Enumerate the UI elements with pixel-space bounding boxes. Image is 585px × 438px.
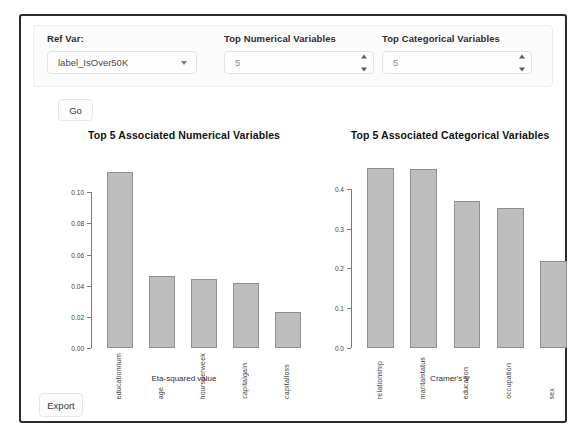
bar xyxy=(191,279,217,348)
x-axis-tick-label-text: sex xyxy=(548,388,555,400)
controls-panel: Ref Var: label_IsOver50K Top Numerical V… xyxy=(33,25,553,87)
bar xyxy=(497,208,524,348)
bar xyxy=(275,312,301,348)
top-categorical-value: 5 xyxy=(383,57,398,68)
app-window-frame: Ref Var: label_IsOver50K Top Numerical V… xyxy=(19,14,567,423)
chevron-down-icon[interactable] xyxy=(181,61,187,65)
app-root: Ref Var: label_IsOver50K Top Numerical V… xyxy=(0,0,585,438)
top-numerical-value: 5 xyxy=(225,57,240,68)
top-categorical-spinner[interactable] xyxy=(516,54,527,71)
x-axis-title: Eta-squared value xyxy=(55,374,313,383)
export-button[interactable]: Export xyxy=(39,393,83,417)
top-numerical-stepper[interactable]: 5 xyxy=(224,51,374,74)
spinner-up-icon[interactable] xyxy=(519,54,525,58)
bar xyxy=(107,172,133,348)
bar xyxy=(454,201,481,348)
ref-var-group: Ref Var: label_IsOver50K xyxy=(47,33,197,74)
bars-area xyxy=(55,161,313,348)
bar xyxy=(410,169,437,348)
bar xyxy=(233,283,259,348)
go-button[interactable]: Go xyxy=(58,99,93,121)
spinner-up-icon[interactable] xyxy=(361,54,367,58)
top-numerical-group: Top Numerical Variables 5 xyxy=(224,33,374,74)
top-categorical-stepper[interactable]: 5 xyxy=(382,51,532,74)
categorical-chart: Top 5 Associated Categorical Variables 0… xyxy=(321,129,579,394)
x-axis-tick-label-text: age xyxy=(157,387,164,399)
top-numerical-spinner[interactable] xyxy=(358,54,369,71)
bars-area xyxy=(321,161,579,348)
top-numerical-label: Top Numerical Variables xyxy=(224,33,374,44)
spinner-down-icon[interactable] xyxy=(519,67,525,71)
ref-var-value: label_IsOver50K xyxy=(48,57,128,68)
y-axis-tick xyxy=(347,348,351,349)
y-axis-tick xyxy=(87,348,91,349)
bar xyxy=(367,168,394,348)
x-axis-title: Cramer's V xyxy=(321,374,579,383)
bar xyxy=(149,276,175,348)
spinner-down-icon[interactable] xyxy=(361,67,367,71)
numerical-chart-title: Top 5 Associated Numerical Variables xyxy=(55,129,313,141)
top-categorical-label: Top Categorical Variables xyxy=(382,33,532,44)
ref-var-label: Ref Var: xyxy=(47,33,197,44)
categorical-chart-title: Top 5 Associated Categorical Variables xyxy=(321,129,579,141)
bar xyxy=(540,261,567,348)
numerical-chart: Top 5 Associated Numerical Variables 0.0… xyxy=(55,129,313,394)
top-categorical-group: Top Categorical Variables 5 xyxy=(382,33,532,74)
numerical-plot-canvas: 0.000.020.040.060.080.10educationnumageh… xyxy=(55,155,313,394)
categorical-plot-canvas: 0.00.10.20.30.4relationshipmaritalstatus… xyxy=(321,155,579,394)
ref-var-select[interactable]: label_IsOver50K xyxy=(47,51,197,74)
